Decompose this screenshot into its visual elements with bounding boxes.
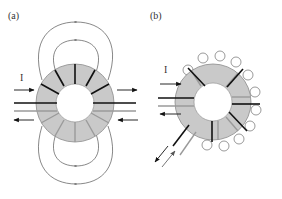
current-arrows-b-light	[162, 151, 175, 167]
arrow-out-diagonal-icon	[155, 146, 168, 162]
panel-b-diagram	[155, 51, 261, 167]
arrow-in-diagonal-icon	[162, 151, 175, 167]
toroid-hole-a	[56, 84, 94, 122]
toroid-hole-b	[194, 83, 232, 121]
diagram-canvas	[0, 0, 282, 199]
panel-a-diagram	[14, 22, 138, 184]
